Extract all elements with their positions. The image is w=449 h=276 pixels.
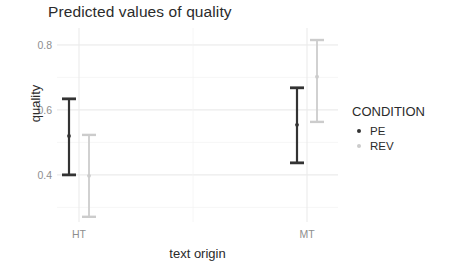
series-pe bbox=[62, 88, 304, 175]
legend-key-rev bbox=[352, 139, 366, 153]
y-axis-title: quality bbox=[28, 59, 43, 149]
dot-icon bbox=[357, 144, 361, 148]
legend-title: CONDITION bbox=[352, 104, 447, 119]
data-point-rev-mt bbox=[315, 75, 319, 79]
chart-container: Predicted values of quality 0.8 0.6 0.4 … bbox=[0, 0, 449, 276]
legend-item-label-rev: REV bbox=[370, 140, 394, 152]
legend-item-pe[interactable]: PE bbox=[352, 124, 447, 138]
errorbar-pe-mt bbox=[290, 88, 304, 163]
legend: CONDITION PE REV bbox=[352, 104, 447, 153]
series-rev bbox=[82, 40, 324, 217]
x-tick-label-mt: MT bbox=[299, 228, 314, 240]
x-tick-label-ht: HT bbox=[72, 228, 86, 240]
x-axis-title: text origin bbox=[57, 246, 338, 261]
legend-key-pe bbox=[352, 124, 366, 138]
plot-panel bbox=[57, 28, 338, 222]
legend-item-rev[interactable]: REV bbox=[352, 139, 447, 153]
dot-icon bbox=[357, 129, 361, 133]
legend-item-label-pe: PE bbox=[370, 125, 385, 137]
y-tick-label-0.4: 0.4 bbox=[22, 169, 52, 181]
errorbar-rev-ht bbox=[82, 135, 96, 217]
plot-area-svg bbox=[57, 28, 338, 222]
data-point-pe-mt bbox=[295, 123, 299, 127]
data-point-pe-ht bbox=[67, 134, 71, 138]
y-tick-label-0.8: 0.8 bbox=[22, 39, 52, 51]
chart-title: Predicted values of quality bbox=[48, 3, 232, 21]
data-point-rev-ht bbox=[87, 174, 91, 178]
